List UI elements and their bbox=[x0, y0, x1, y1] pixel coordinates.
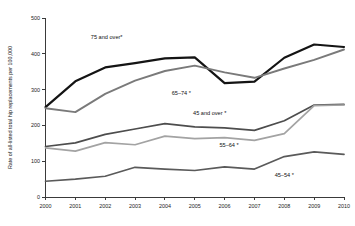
y-tick-label: 200 bbox=[31, 122, 40, 128]
chart-container: 0100200300400500 20002001200220032004200… bbox=[0, 0, 355, 226]
x-tick-label: 2002 bbox=[99, 203, 111, 209]
series-label-65-74-: 65–74 * bbox=[172, 90, 192, 96]
series-label-45-54-: 45–54 * bbox=[275, 172, 295, 178]
x-tick-label: 2010 bbox=[338, 203, 350, 209]
x-tick-label: 2008 bbox=[278, 203, 290, 209]
y-tick-label: 400 bbox=[31, 51, 40, 57]
x-tick-label: 2007 bbox=[248, 203, 260, 209]
y-axis-title: Rate of all-listed total hip replacement… bbox=[7, 46, 13, 169]
x-tick-label: 2005 bbox=[189, 203, 201, 209]
x-tick-label: 2000 bbox=[40, 203, 52, 209]
x-tick-label: 2004 bbox=[159, 203, 171, 209]
series-label-75-and-over-: 75 and over* bbox=[91, 34, 124, 40]
y-axis-title-text: Rate of all-listed total hip replacement… bbox=[7, 46, 13, 169]
y-tick-label: 0 bbox=[37, 194, 40, 200]
series-line-75-and-over- bbox=[46, 44, 345, 107]
y-axis: 0100200300400500 bbox=[31, 15, 46, 200]
x-tick-label: 2006 bbox=[219, 203, 231, 209]
y-tick-label: 500 bbox=[31, 15, 40, 21]
series-line-65-74- bbox=[46, 50, 345, 113]
y-tick-label: 100 bbox=[31, 158, 40, 164]
y-tick-label: 300 bbox=[31, 87, 40, 93]
series-label-55-64-: 55–64 * bbox=[219, 142, 239, 148]
series-labels: 75 and over*65–74 *45 and over *55–64 *4… bbox=[91, 34, 295, 177]
line-chart: 0100200300400500 20002001200220032004200… bbox=[0, 0, 355, 226]
series-label-45-and-over-: 45 and over * bbox=[193, 110, 227, 116]
x-axis: 2000200120022003200420052006200720082009… bbox=[40, 197, 351, 209]
x-tick-label: 2001 bbox=[69, 203, 81, 209]
series-line-45-54- bbox=[46, 152, 345, 181]
x-tick-label: 2009 bbox=[308, 203, 320, 209]
x-tick-label: 2003 bbox=[129, 203, 141, 209]
